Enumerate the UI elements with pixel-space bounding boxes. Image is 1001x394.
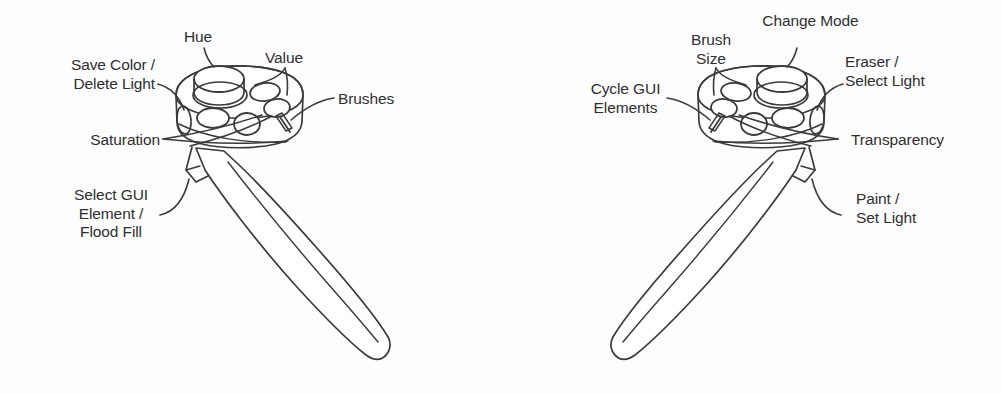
label-brush-size: Brush Size: [680, 31, 742, 68]
label-save-color-delete-light: Save Color / Delete Light: [10, 56, 155, 93]
leader-hue: [204, 48, 214, 67]
right-controller-handle: [611, 148, 805, 359]
leader-change-mode: [787, 48, 797, 67]
wand-controller-diagram: Save Color / Delete Light Hue Value Brus…: [0, 0, 1001, 394]
right-neck-bevel-edge: [801, 166, 815, 170]
label-paint-set-light: Paint / Set Light: [856, 190, 966, 227]
label-transparency: Transparency: [851, 131, 986, 150]
left-controller-handle: [196, 148, 390, 359]
label-change-mode: Change Mode: [748, 12, 873, 31]
label-saturation: Saturation: [50, 131, 160, 150]
label-hue: Hue: [176, 28, 220, 47]
label-cycle-gui-elements: Cycle GUI Elements: [573, 80, 678, 117]
label-select-gui-element-flood-fill: Select GUI Element / Flood Fill: [55, 186, 167, 242]
right-transparency-button[interactable]: [772, 108, 804, 128]
left-saturation-button[interactable]: [197, 108, 229, 128]
leader-paint-set-light: [812, 179, 841, 215]
left-hue-button[interactable]: [194, 66, 244, 92]
label-brushes: Brushes: [338, 90, 418, 109]
label-eraser-select-light: Eraser / Select Light: [845, 53, 970, 90]
label-value: Value: [255, 49, 313, 68]
right-change-mode-button[interactable]: [757, 66, 807, 92]
left-neck-bevel-edge: [186, 166, 200, 170]
